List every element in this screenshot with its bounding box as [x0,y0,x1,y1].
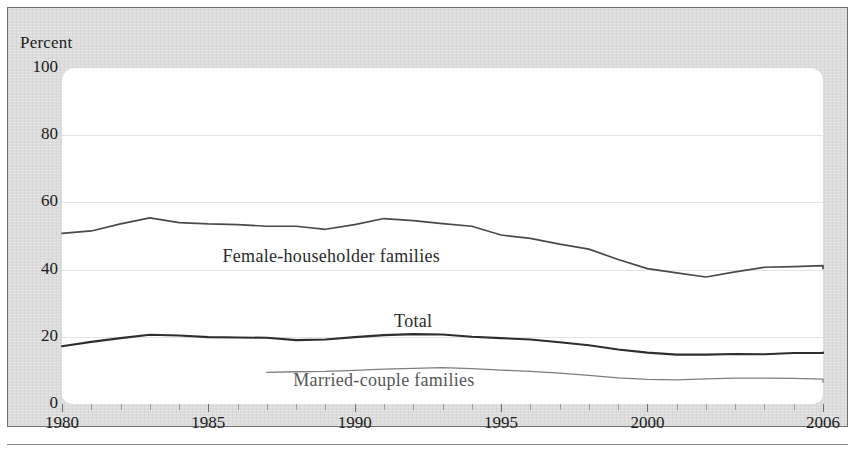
line-series-1 [62,334,823,354]
series-label-2: Married-couple families [293,370,474,391]
series-lines [0,0,856,468]
series-label-0: Female-householder families [222,246,440,267]
line-series-0 [62,218,823,277]
chart-figure: Percent 020406080100 1980198519901995200… [0,0,856,468]
series-label-1: Total [394,311,432,332]
